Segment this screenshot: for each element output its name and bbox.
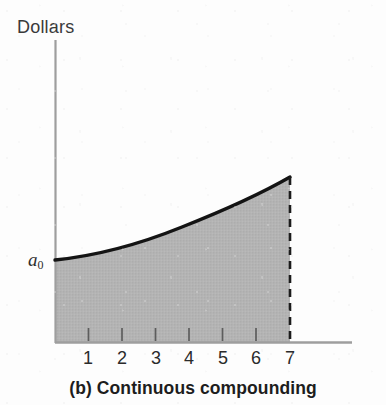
figure-continuous-compounding: Dollars a0 1 2 3 4 5 6 7 (b) Continuous … — [0, 0, 386, 405]
shaded-area-under-curve — [55, 177, 290, 342]
plot-canvas — [0, 0, 386, 405]
